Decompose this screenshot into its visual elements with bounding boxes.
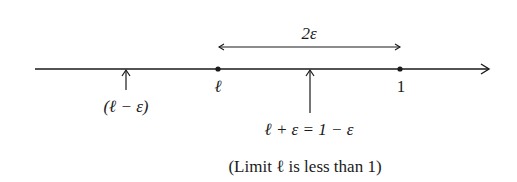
caption: (Limit ℓ is less than 1) (228, 157, 381, 177)
number-line-diagram (0, 0, 517, 182)
label-one: 1 (397, 77, 406, 97)
label-l: ℓ (214, 77, 221, 97)
label-l-minus-eps: (ℓ − ε) (103, 97, 148, 117)
point-one-dot (397, 66, 402, 71)
label-l-plus-eps: ℓ + ε = 1 − ε (265, 120, 354, 140)
point-l-dot (215, 66, 220, 71)
span-label: 2ε (301, 24, 316, 44)
